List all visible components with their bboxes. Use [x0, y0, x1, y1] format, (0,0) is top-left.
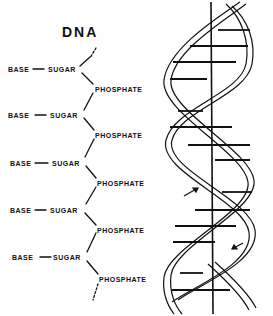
chain-bonds — [33, 48, 98, 300]
strand-tails — [208, 262, 256, 310]
dna-diagram-graphic — [0, 0, 273, 316]
direction-arrows — [184, 188, 243, 249]
